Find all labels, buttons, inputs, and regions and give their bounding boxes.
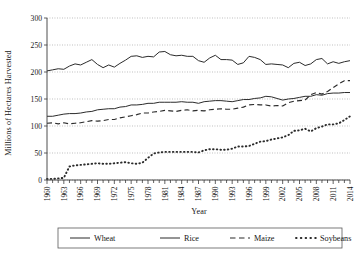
x-axis-title: Year [191,207,207,216]
data-series-layer [47,51,350,178]
legend-label-soybeans: Soybeans [320,234,351,243]
x-tick-label-1990: 1990 [211,186,220,201]
series-line-maize [47,81,350,124]
y-axis-title: Millions of Hectares Harvested [4,50,13,156]
x-tick-label-1981: 1981 [161,186,170,201]
legend: WheatRiceMaizeSoybeans [58,228,351,248]
legend-label-wheat: Wheat [94,234,116,243]
y-tick-label-0: 0 [38,176,42,185]
series-line-wheat [47,51,350,70]
x-tick-label-1996: 1996 [245,186,254,201]
x-tick-label-1999: 1999 [262,186,271,201]
x-tick-label-2002: 2002 [278,186,287,201]
y-axis-ticks: 050100150200250300 [31,14,47,185]
x-tick-label-1963: 1963 [60,186,69,201]
legend-items: WheatRiceMaizeSoybeans [70,234,351,243]
x-tick-label-2005: 2005 [295,186,304,201]
series-line-rice [47,93,350,117]
x-tick-label-1972: 1972 [110,186,119,201]
x-tick-label-1978: 1978 [144,186,153,201]
y-tick-label-150: 150 [31,95,43,104]
y-tick-label-100: 100 [31,122,43,131]
y-tick-label-300: 300 [31,14,43,23]
x-tick-label-1960: 1960 [43,186,52,201]
gridlines [47,18,350,180]
x-tick-label-1987: 1987 [194,186,203,201]
line-chart-figure: 050100150200250300 196019631966196919721… [0,0,360,256]
y-tick-label-250: 250 [31,41,43,50]
x-tick-label-1969: 1969 [93,186,102,201]
y-tick-label-200: 200 [31,68,43,77]
y-tick-label-50: 50 [34,149,42,158]
x-tick-label-1984: 1984 [177,186,186,201]
x-tick-label-2011: 2011 [329,186,338,201]
x-tick-label-2014: 2014 [346,186,355,201]
x-tick-label-1975: 1975 [127,186,136,201]
x-tick-label-1966: 1966 [76,186,85,201]
legend-label-maize: Maize [254,234,275,243]
x-tick-label-1993: 1993 [228,186,237,201]
legend-label-rice: Rice [184,234,199,243]
x-tick-label-2008: 2008 [312,186,321,201]
x-axis-ticks: 1960196319661969197219751978198119841987… [43,180,355,201]
